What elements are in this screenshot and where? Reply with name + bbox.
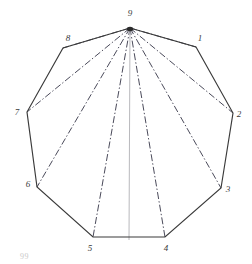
- corner-note: 99: [20, 252, 29, 261]
- vertex-label-2: 2: [237, 110, 242, 119]
- polygon-figure: [0, 0, 252, 264]
- vertex-label-5: 5: [88, 244, 93, 253]
- vertex-label-9: 9: [128, 9, 133, 18]
- apex-dot: [127, 27, 133, 31]
- vertex-label-1: 1: [198, 34, 203, 43]
- diagonal-9-to-7: [27, 28, 130, 112]
- vertex-label-4: 4: [164, 244, 169, 253]
- vertex-label-6: 6: [26, 180, 31, 189]
- vertex-label-3: 3: [226, 185, 231, 194]
- diagonal-9-to-2: [130, 28, 233, 113]
- diagonal-9-to-5: [93, 28, 130, 237]
- vertex-label-8: 8: [66, 34, 71, 43]
- vertex-label-7: 7: [15, 108, 20, 117]
- apex-vertex-marker: [127, 27, 133, 31]
- center-axis-line: [129, 28, 130, 240]
